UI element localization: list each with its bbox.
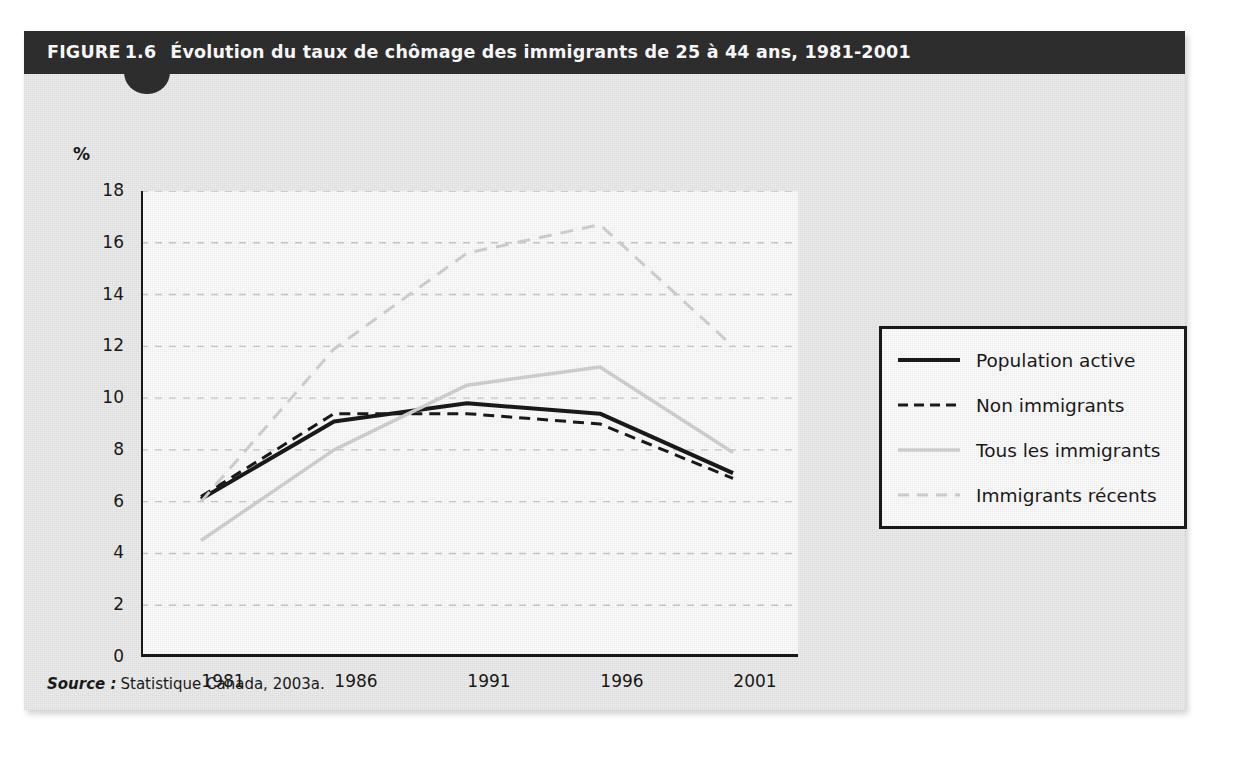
legend-item[interactable]: Immigrants récents <box>896 480 1157 510</box>
y-tick-label: 6 <box>84 491 124 511</box>
y-tick-label: 18 <box>84 180 124 200</box>
legend-swatch-solid-icon <box>896 350 962 370</box>
x-tick-label: 1991 <box>439 671 539 691</box>
legend-label: Population active <box>976 350 1135 371</box>
y-tick-label: 4 <box>84 542 124 562</box>
y-tick-label: 2 <box>84 594 124 614</box>
y-tick-label: 16 <box>84 232 124 252</box>
x-tick-label: 2001 <box>705 671 805 691</box>
figure-title: FIGURE1.6Évolution du taux de chômage de… <box>47 42 911 62</box>
legend-item[interactable]: Population active <box>896 345 1135 375</box>
chart-legend: Population activeNon immigrantsTous les … <box>879 326 1187 529</box>
source-key: Source : <box>47 675 116 693</box>
legend-swatch-dashed-icon <box>896 485 962 505</box>
y-tick-label: 12 <box>84 335 124 355</box>
figure-card: FIGURE1.6Évolution du taux de chômage de… <box>24 31 1185 710</box>
legend-item[interactable]: Non immigrants <box>896 390 1124 420</box>
figure-label: FIGURE <box>47 42 121 62</box>
legend-swatch-dashed-icon <box>896 395 962 415</box>
y-tick-label: 8 <box>84 439 124 459</box>
figure-number: 1.6 <box>125 42 157 62</box>
source-note: Source :Statistique Canada, 2003a. <box>47 675 325 693</box>
series-svg <box>141 191 798 657</box>
legend-label: Immigrants récents <box>976 485 1157 506</box>
x-tick-label: 1996 <box>572 671 672 691</box>
chart-area: % 024681012141618 19811986199119962001 P… <box>24 74 1185 668</box>
figure-title-text: Évolution du taux de chômage des immigra… <box>170 42 911 62</box>
plot-canvas <box>141 191 798 657</box>
source-text: Statistique Canada, 2003a. <box>120 675 324 693</box>
legend-swatch-solid-icon <box>896 440 962 460</box>
series-line-4 <box>201 225 733 502</box>
y-tick-label: 0 <box>84 646 124 666</box>
legend-label: Tous les immigrants <box>976 440 1160 461</box>
y-tick-label: 10 <box>84 387 124 407</box>
legend-label: Non immigrants <box>976 395 1124 416</box>
y-axis-unit-label: % <box>73 144 90 164</box>
y-tick-label: 14 <box>84 284 124 304</box>
legend-item[interactable]: Tous les immigrants <box>896 435 1160 465</box>
